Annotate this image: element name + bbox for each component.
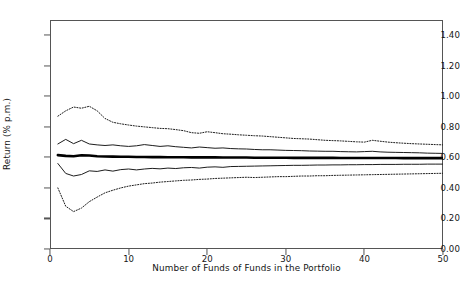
y-tick-mark	[44, 65, 50, 66]
y-tick-mark	[44, 96, 50, 97]
y-tick-label: 1.20	[414, 61, 460, 71]
y-tick-label: 0.80	[414, 122, 460, 132]
y-tick-mark	[44, 35, 50, 36]
series-mean	[58, 155, 443, 158]
chart-figure: 0.000.200.400.600.801.001.201.40 0102030…	[0, 0, 460, 283]
series-lower-extreme	[58, 173, 443, 211]
chart-curves	[50, 20, 443, 249]
y-tick-label: 0.60	[414, 152, 460, 162]
series-upper-extreme	[58, 106, 443, 145]
y-axis-title: Return (% p.m.)	[2, 98, 12, 170]
y-tick-label: 0.20	[414, 213, 460, 223]
y-tick-label: 0.00	[414, 244, 460, 254]
y-tick-label: 0.40	[414, 183, 460, 193]
y-tick-label: 1.40	[414, 30, 460, 40]
x-axis-title: Number of Funds of Funds in the Portfoli…	[50, 263, 443, 273]
y-tick-mark	[44, 187, 50, 188]
y-tick-mark	[44, 157, 50, 158]
series-upper-quartile	[58, 139, 443, 153]
y-tick-mark	[44, 218, 50, 219]
y-tick-mark	[44, 126, 50, 127]
y-tick-label: 1.00	[414, 91, 460, 101]
